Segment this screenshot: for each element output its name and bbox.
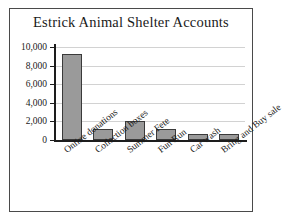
y-axis-tick-label: 2,000	[26, 116, 47, 126]
chart-frame: Estrick Animal Shelter Accounts 02,0004,…	[9, 8, 253, 212]
y-axis-tick-mark	[50, 84, 55, 85]
y-axis-tick-label: 6,000	[26, 79, 47, 89]
y-axis-tick-label: 8,000	[26, 61, 47, 71]
bar	[62, 54, 82, 140]
y-axis-tick-label: 10,000	[21, 42, 47, 52]
y-axis-tick-mark	[50, 66, 55, 67]
y-axis-tick-mark	[50, 121, 55, 122]
y-axis-tick-mark	[50, 103, 55, 104]
y-axis-tick-label: 0	[42, 135, 47, 145]
y-axis-tick-label: 4,000	[26, 98, 47, 108]
y-axis-tick-mark	[50, 140, 55, 141]
chart-title: Estrick Animal Shelter Accounts	[10, 14, 252, 31]
plot-area: 02,0004,0006,0008,00010,000 Online donat…	[56, 47, 245, 140]
y-axis-tick-mark	[50, 47, 55, 48]
